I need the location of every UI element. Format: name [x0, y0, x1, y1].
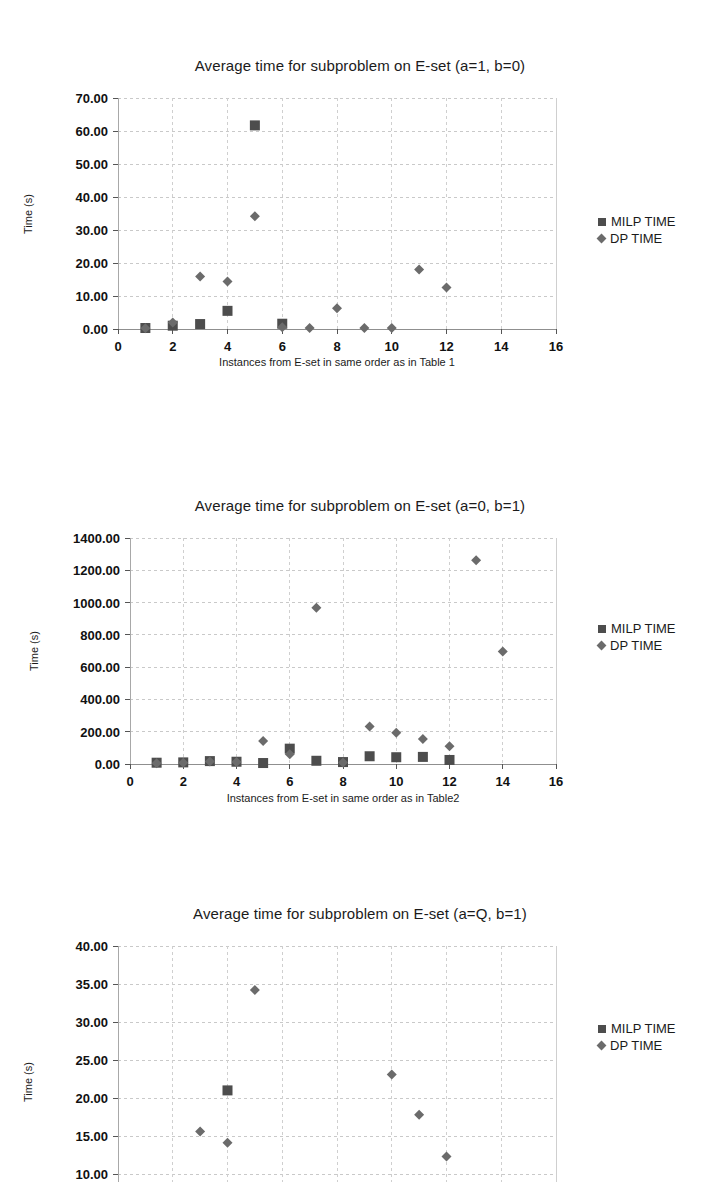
dp-data-point	[414, 1110, 424, 1120]
y-tick-label: 1400.00	[73, 531, 120, 546]
y-tick-label: 0.00	[83, 322, 108, 337]
dp-data-point	[471, 555, 481, 565]
milp-data-point	[223, 306, 233, 316]
y-tick-label: 30.00	[75, 1015, 108, 1030]
y-tick-label: 50.00	[75, 157, 108, 172]
milp-data-point	[223, 1085, 233, 1095]
chart-title-3: Average time for subproblem on E-set (a=…	[0, 903, 720, 922]
legend-item-dp: DP TIME	[598, 1037, 676, 1054]
y-tick-label: 10.00	[75, 1167, 108, 1182]
dp-data-point	[195, 1126, 205, 1136]
dp-data-point	[332, 303, 342, 313]
dp-data-point	[442, 1152, 452, 1162]
y-tick-label: 200.00	[80, 725, 120, 740]
x-tick-label: 4	[233, 774, 241, 789]
y-tick-label: 30.00	[75, 223, 108, 238]
square-marker-icon	[598, 625, 606, 633]
square-marker-icon	[598, 218, 606, 226]
x-axis-title: Instances from E-set in same order as in…	[227, 792, 460, 804]
x-tick-label: 0	[126, 774, 133, 789]
chart-title-1: Average time for subproblem on E-set (a=…	[0, 55, 720, 74]
x-tick-label: 6	[279, 339, 286, 354]
y-tick-label: 35.00	[75, 977, 108, 992]
dp-data-point	[365, 722, 375, 732]
milp-data-point	[250, 120, 260, 130]
milp-data-point	[445, 755, 455, 765]
legend-item-milp: MILP TIME	[598, 1020, 676, 1037]
x-tick-label: 2	[180, 774, 187, 789]
dp-data-point	[311, 603, 321, 613]
milp-data-point	[391, 752, 401, 762]
square-marker-icon	[598, 1025, 606, 1033]
x-tick-label: 10	[389, 774, 403, 789]
dp-data-point	[387, 1069, 397, 1079]
y-tick-label: 25.00	[75, 1053, 108, 1068]
diamond-marker-icon	[597, 1041, 607, 1051]
dp-data-point	[391, 728, 401, 738]
y-tick-label: 40.00	[75, 190, 108, 205]
dp-data-point	[418, 734, 428, 744]
legend-label-dp: DP TIME	[610, 230, 662, 247]
legend-2: MILP TIME DP TIME	[598, 620, 676, 654]
diamond-marker-icon	[597, 234, 607, 244]
y-tick-label: 0.00	[95, 757, 120, 772]
x-tick-label: 2	[169, 339, 176, 354]
chart-block-1: Average time for subproblem on E-set (a=…	[0, 55, 720, 475]
y-tick-label: 60.00	[75, 124, 108, 139]
dp-data-point	[387, 323, 397, 333]
dp-data-point	[223, 1138, 233, 1148]
y-tick-label: 10.00	[75, 289, 108, 304]
milp-data-point	[258, 758, 268, 768]
dp-data-point	[305, 323, 315, 333]
chart-block-2: Average time for subproblem on E-set (a=…	[0, 495, 720, 885]
y-tick-label: 70.00	[75, 91, 108, 106]
dp-data-point	[258, 736, 268, 746]
x-tick-label: 0	[114, 339, 121, 354]
x-tick-label: 10	[385, 339, 399, 354]
chart-block-3: Average time for subproblem on E-set (a=…	[0, 885, 720, 1186]
legend-1: MILP TIME DP TIME	[598, 213, 676, 247]
legend-3: MILP TIME DP TIME	[598, 1020, 676, 1054]
legend-item-milp: MILP TIME	[598, 213, 676, 230]
x-tick-label: 12	[439, 339, 453, 354]
legend-label-dp: DP TIME	[610, 637, 662, 654]
x-tick-label: 4	[224, 339, 232, 354]
y-tick-label: 1200.00	[73, 563, 120, 578]
x-axis-title: Instances from E-set in same order as in…	[219, 356, 455, 368]
x-tick-label: 16	[549, 339, 563, 354]
milp-data-point	[365, 751, 375, 761]
y-axis-title: Time (s)	[28, 631, 40, 671]
dp-data-point	[250, 211, 260, 221]
legend-label-milp: MILP TIME	[611, 213, 676, 230]
y-tick-label: 1000.00	[73, 596, 120, 611]
chart-title-2: Average time for subproblem on E-set (a=…	[0, 495, 720, 514]
dp-data-point	[359, 323, 369, 333]
y-axis-title: Time (s)	[22, 194, 34, 234]
legend-item-milp: MILP TIME	[598, 620, 676, 637]
y-tick-label: 800.00	[80, 628, 120, 643]
x-tick-label: 8	[333, 339, 340, 354]
y-tick-label: 400.00	[80, 692, 120, 707]
legend-label-milp: MILP TIME	[611, 620, 676, 637]
legend-label-dp: DP TIME	[610, 1037, 662, 1054]
x-tick-label: 12	[442, 774, 456, 789]
y-tick-label: 15.00	[75, 1129, 108, 1144]
dp-data-point	[250, 985, 260, 995]
y-tick-label: 20.00	[75, 1091, 108, 1106]
dp-data-point	[414, 265, 424, 275]
x-tick-label: 6	[286, 774, 293, 789]
legend-label-milp: MILP TIME	[611, 1020, 676, 1037]
dp-data-point	[445, 741, 455, 751]
x-tick-label: 14	[496, 774, 511, 789]
x-tick-label: 16	[549, 774, 563, 789]
y-tick-label: 40.00	[75, 939, 108, 954]
y-tick-label: 600.00	[80, 660, 120, 675]
plot-area-2: 0.00200.00400.00600.00800.001000.001200.…	[0, 514, 720, 814]
milp-data-point	[311, 756, 321, 766]
milp-data-point	[195, 319, 205, 329]
milp-data-point	[418, 752, 428, 762]
dp-data-point	[223, 276, 233, 286]
x-tick-label: 8	[339, 774, 346, 789]
figure-container: Average time for subproblem on E-set (a=…	[0, 55, 720, 1186]
dp-data-point	[195, 272, 205, 282]
